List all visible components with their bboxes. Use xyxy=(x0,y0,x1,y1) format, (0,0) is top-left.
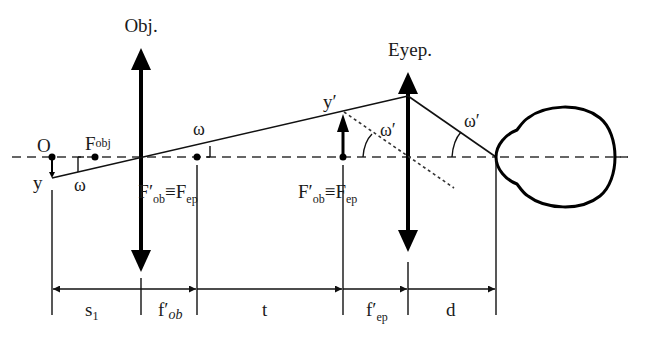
focus-dot-1 xyxy=(194,154,201,161)
image-height-label: y′ xyxy=(323,91,337,112)
object-point-label: O xyxy=(37,135,51,156)
dim-fep-label: f′ep xyxy=(366,299,388,324)
objective-label: Obj. xyxy=(124,15,157,36)
eyepiece-label: Eyep. xyxy=(388,39,432,60)
angle-arc-omega-prime-1 xyxy=(363,134,372,157)
ray-to-eye xyxy=(408,96,496,157)
omega-label-mid: ω xyxy=(193,119,205,139)
dotted-parallel-ray xyxy=(344,112,454,188)
dim-fob-label: f′ob xyxy=(158,299,182,322)
focus-label-1: F′ob≡Fep xyxy=(138,181,197,206)
omega-prime-label-2: ω′ xyxy=(464,111,480,131)
omega-prime-label-1: ω′ xyxy=(380,120,396,140)
focus-dot-2 xyxy=(340,154,347,161)
dim-s1-label: s1 xyxy=(85,299,98,323)
dim-t-label: t xyxy=(262,299,268,320)
omega-label-left: ω xyxy=(74,175,86,195)
focus-label-2: F′ob≡Fep xyxy=(298,181,357,206)
objective-lens xyxy=(131,48,151,272)
objective-focus-dot xyxy=(92,154,99,161)
object-height-label: y xyxy=(33,172,43,193)
telescope-diagram: Obj. Eyep. O y Fobj ω ω F′ob≡Fep y′ F′ob… xyxy=(0,0,648,345)
objective-focus-label: Fobj xyxy=(85,133,111,154)
angle-arc-omega-prime-2 xyxy=(452,132,461,157)
dim-d-label: d xyxy=(446,299,456,320)
